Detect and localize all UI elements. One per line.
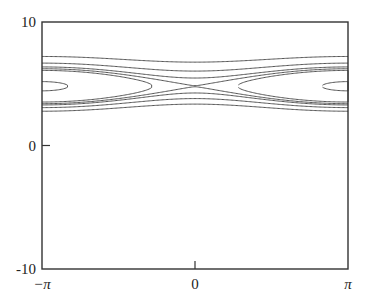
x-tick-label: π <box>344 276 352 292</box>
passing-orbit-lower <box>42 104 348 111</box>
y-axis: -10010 <box>16 14 50 277</box>
y-tick-label: 10 <box>21 14 36 30</box>
island-left <box>42 82 68 91</box>
x-axis: −π0π <box>33 261 352 292</box>
phase-space-contour-chart: -10010 −π0π <box>0 0 367 303</box>
y-tick-label: 0 <box>29 138 37 154</box>
y-tick-label: -10 <box>16 261 36 277</box>
island-right <box>238 70 348 102</box>
x-tick-label: −π <box>33 276 51 292</box>
island-right <box>323 82 349 91</box>
passing-orbit-upper <box>42 63 348 71</box>
x-tick-label: 0 <box>191 276 199 292</box>
passing-orbit-upper <box>42 56 348 62</box>
plot-frame <box>42 22 348 269</box>
separatrix-lower <box>42 87 348 104</box>
island-left <box>42 70 152 102</box>
contour-lines <box>42 56 348 111</box>
